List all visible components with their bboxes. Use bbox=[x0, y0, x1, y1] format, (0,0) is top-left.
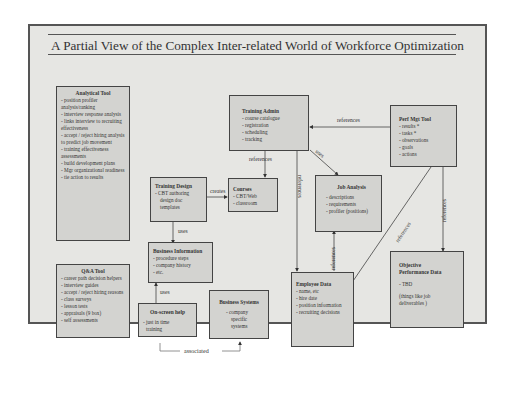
edge-label-training-design-business-info: uses bbox=[178, 228, 188, 234]
node-training-design: Training Design - CBT authoring design d… bbox=[150, 177, 207, 222]
node-item: - name, etc bbox=[296, 288, 349, 295]
node-item: - scheduling bbox=[242, 129, 304, 136]
node-title: Training Admin bbox=[242, 108, 304, 115]
node-objective-performance-data: Objective Performance Data - TBD (things… bbox=[390, 251, 464, 328]
node-item: - position profiler analysis/ranking bbox=[61, 97, 125, 111]
edge-label-associated: associated bbox=[184, 348, 209, 354]
node-business-systems: Business Systems - company specific syst… bbox=[209, 290, 269, 339]
node-job-analysis: Job Analysis - descriptions - requiremen… bbox=[315, 175, 382, 232]
node-item: - accept / reject hiring analysis to pre… bbox=[61, 132, 125, 146]
node-training-admin: Training Admin - course catalogue - regi… bbox=[229, 95, 309, 151]
node-perf-mgt-tool: Perf Mgt Tool - results * - tasks * - ob… bbox=[390, 105, 457, 167]
node-item: - just in time bbox=[143, 319, 192, 326]
node-item: - procedure steps bbox=[153, 255, 208, 262]
node-qa-tool: Q&A Tool - career path decision helpers … bbox=[56, 264, 130, 338]
node-title: Perf Mgt Tool bbox=[399, 116, 452, 123]
node-item: specific bbox=[226, 316, 264, 323]
node-item: - course catalogue bbox=[242, 115, 304, 122]
node-item: - self assessments bbox=[61, 317, 125, 324]
node-item: (things like job deliverables ) bbox=[399, 293, 454, 307]
node-title: Objective Performance Data bbox=[399, 262, 449, 276]
edge-label-training-admin-courses: references bbox=[249, 156, 272, 162]
node-analytical-tool: Analytical Tool - position profiler anal… bbox=[56, 86, 130, 241]
edge-label-employee-data-job-analysis: references bbox=[330, 247, 336, 270]
node-item: - CBT authoring bbox=[155, 190, 202, 197]
node-title: Analytical Tool bbox=[61, 90, 125, 97]
node-item: templates bbox=[155, 204, 202, 211]
node-item: - registration bbox=[242, 122, 304, 129]
node-item: - etc. bbox=[153, 269, 208, 276]
node-item: design doc bbox=[155, 197, 202, 204]
node-item: - lesson tests bbox=[61, 303, 125, 310]
node-item: - company history bbox=[153, 262, 208, 269]
node-item: - profiler (positions) bbox=[326, 208, 377, 215]
edge-label-perf-training-admin: references bbox=[337, 117, 360, 123]
node-item: - links interview to recruiting effectiv… bbox=[61, 118, 125, 132]
node-item: - results * bbox=[399, 123, 452, 130]
node-title: Business Systems bbox=[214, 299, 264, 306]
edge-label-on-screen-help-business-info: uses bbox=[160, 289, 170, 295]
node-item: - CBT/Web bbox=[233, 193, 273, 200]
node-item: - goals bbox=[399, 144, 452, 151]
edge-label-perf-objective-data: references bbox=[441, 199, 447, 222]
node-item: training bbox=[143, 326, 192, 333]
node-item: - career path decision helpers bbox=[61, 275, 125, 282]
node-item: - observations bbox=[399, 137, 452, 144]
node-title: Training Design bbox=[155, 183, 202, 190]
node-business-information: Business Information - procedure steps -… bbox=[148, 242, 213, 283]
node-item: - TBD bbox=[399, 281, 459, 288]
node-item: - position information bbox=[296, 302, 349, 309]
node-item: - training effectiveness assessments bbox=[61, 146, 125, 160]
edge-label-training-design-courses: creates bbox=[210, 188, 226, 194]
node-item: - tracking bbox=[242, 136, 304, 143]
node-item: - actions bbox=[399, 151, 452, 158]
node-on-screen-help: On-screen help - just in time training bbox=[138, 303, 197, 337]
node-title: Q&A Tool bbox=[61, 268, 125, 275]
node-item: - hire date bbox=[296, 295, 349, 302]
node-title: Courses bbox=[233, 186, 273, 193]
node-item: - descriptions bbox=[326, 194, 377, 201]
node-employee-data: Employee Data - name, etc - hire date - … bbox=[291, 272, 354, 347]
node-title: Employee Data bbox=[296, 281, 349, 288]
node-item: - build development plans bbox=[61, 160, 125, 167]
node-item: - interview response analysis bbox=[61, 111, 125, 118]
node-courses: Courses - CBT/Web - classroom bbox=[228, 178, 278, 212]
node-title: Business Information bbox=[153, 248, 208, 255]
node-item: - interview guides bbox=[61, 282, 125, 289]
edge-label-training-admin-employee-data: references bbox=[297, 175, 303, 198]
node-item: - classroom bbox=[233, 200, 273, 207]
node-item: - appraisals (9 box) bbox=[61, 310, 125, 317]
node-title: On-screen help bbox=[143, 309, 192, 316]
node-item: systems bbox=[226, 323, 264, 330]
node-item: - tie action to results bbox=[61, 174, 125, 181]
node-item: - requirements bbox=[326, 201, 377, 208]
node-item: - Mgr organizational readiness bbox=[61, 167, 125, 174]
node-item: - accept / reject hiring reasons bbox=[61, 289, 125, 296]
node-item: - company bbox=[226, 309, 264, 316]
node-title: Job Analysis bbox=[326, 184, 377, 191]
node-item: - recruiting decisions bbox=[296, 309, 349, 316]
node-item: - class surveys bbox=[61, 296, 125, 303]
node-item: - tasks * bbox=[399, 130, 452, 137]
